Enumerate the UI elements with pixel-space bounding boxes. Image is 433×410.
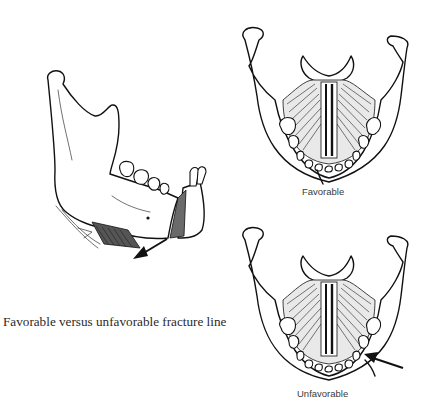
unfavorable-label: Unfavorable bbox=[297, 388, 348, 399]
unfavorable-mandible-illustration bbox=[225, 210, 433, 385]
mandible-inferior-view bbox=[243, 28, 408, 184]
mental-foramen bbox=[146, 216, 149, 219]
displacement-arrow-icon bbox=[133, 239, 167, 259]
favorable-mandible-illustration bbox=[225, 0, 433, 185]
favorable-label: Favorable bbox=[302, 186, 344, 197]
mandible-inferior-view bbox=[243, 228, 408, 380]
figure-caption: Favorable versus unfavorable fracture li… bbox=[3, 314, 226, 330]
lateral-mandible-illustration bbox=[0, 60, 230, 270]
mandible-outline bbox=[48, 71, 178, 239]
